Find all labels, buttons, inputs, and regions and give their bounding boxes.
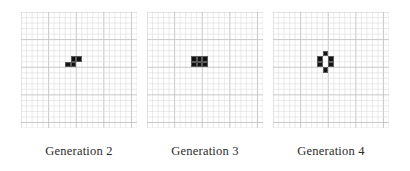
life-grid-generation-3[interactable]	[147, 12, 263, 128]
panel-caption: Generation 2	[45, 145, 112, 158]
live-cell	[76, 56, 82, 62]
panel-caption: Generation 3	[171, 145, 238, 158]
live-cell	[71, 62, 77, 68]
generation-panel: Generation 3	[146, 12, 264, 158]
life-generations-figure: Generation 2 Generation 3 Generation 4	[0, 0, 410, 171]
generation-panel: Generation 2	[20, 12, 138, 158]
live-cell-layer	[21, 12, 137, 128]
panel-caption: Generation 4	[297, 145, 364, 158]
live-cell-layer	[273, 12, 389, 128]
life-grid-generation-4[interactable]	[273, 12, 389, 128]
live-cell-layer	[147, 12, 263, 128]
generation-panel: Generation 4	[272, 12, 390, 158]
life-grid-generation-2[interactable]	[21, 12, 137, 128]
live-cell	[202, 62, 208, 68]
panel-row: Generation 2 Generation 3 Generation 4	[0, 0, 410, 171]
live-cell	[328, 62, 334, 68]
live-cell	[323, 67, 329, 73]
